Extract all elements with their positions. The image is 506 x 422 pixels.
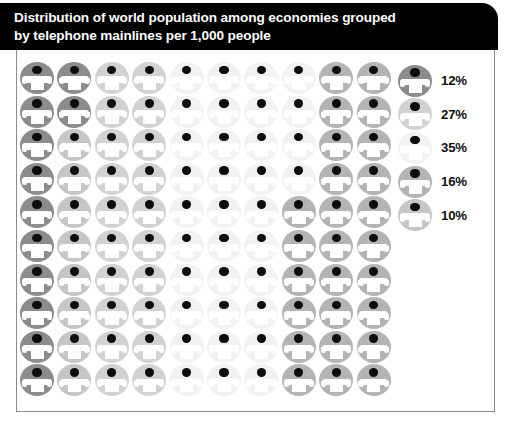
pictogram-cell (355, 96, 392, 130)
icon-dot (410, 136, 419, 145)
telephone-icon (207, 62, 241, 94)
icon-dot (369, 267, 378, 276)
icon-base (31, 281, 44, 292)
telephone-icon (95, 196, 129, 228)
icon-dot (219, 200, 228, 209)
pictogram-cell (242, 129, 279, 163)
icon-dot (332, 334, 341, 343)
icon-base (255, 180, 268, 191)
telephone-icon (132, 230, 166, 262)
icon-base (68, 180, 81, 191)
pictogram-cell (18, 230, 55, 264)
telephone-icon (244, 297, 278, 329)
icon-base (143, 348, 156, 359)
telephone-icon (57, 364, 91, 396)
icon-base (180, 147, 193, 158)
icon-base (218, 147, 231, 158)
telephone-icon (282, 163, 316, 195)
pictogram-cell (93, 230, 130, 264)
icon-dot (182, 99, 191, 108)
telephone-icon (319, 264, 353, 296)
pictogram-cell (130, 230, 167, 264)
pictogram-cell (55, 129, 92, 163)
icon-dot (257, 368, 266, 377)
icon-dot (410, 68, 419, 77)
icon-dot (107, 267, 116, 276)
icon-dot (369, 166, 378, 175)
icon-dot (70, 234, 79, 243)
icon-base (143, 147, 156, 158)
pictogram-cell (242, 264, 279, 298)
telephone-icon (398, 98, 432, 130)
pictogram-cell (205, 96, 242, 130)
icon-dot (369, 234, 378, 243)
icon-base (255, 214, 268, 225)
telephone-icon (207, 163, 241, 195)
icon-dot (332, 234, 341, 243)
icon-dot (369, 334, 378, 343)
icon-dot (410, 169, 419, 178)
pictogram-cell (55, 62, 92, 96)
icon-base (255, 382, 268, 393)
legend: 12%27%35%16%10% (398, 64, 484, 232)
pictogram-cell (130, 264, 167, 298)
icon-dot (70, 66, 79, 75)
icon-base (409, 183, 422, 194)
telephone-icon (170, 364, 204, 396)
icon-base (367, 247, 380, 258)
pictogram-cell (355, 62, 392, 96)
pictogram-cell (168, 364, 205, 398)
telephone-icon (132, 96, 166, 128)
pictogram-cell (242, 196, 279, 230)
telephone-icon (282, 264, 316, 296)
icon-base (68, 382, 81, 393)
icon-base (31, 315, 44, 326)
telephone-icon (20, 96, 54, 128)
pictogram-cell (18, 96, 55, 130)
icon-base (68, 214, 81, 225)
icon-dot (332, 301, 341, 310)
pictogram-cell (355, 264, 392, 298)
pictogram-cell (280, 96, 317, 130)
telephone-icon (207, 129, 241, 161)
infographic-figure: Distribution of world population among e… (0, 0, 506, 422)
icon-base (292, 180, 305, 191)
pictogram-cell (130, 62, 167, 96)
pictogram-cell (55, 96, 92, 130)
telephone-icon (95, 264, 129, 296)
pictogram-cell (168, 62, 205, 96)
icon-dot (32, 200, 41, 209)
pictogram-cell (205, 230, 242, 264)
telephone-icon (95, 230, 129, 262)
legend-item: 27% (398, 98, 484, 132)
telephone-icon (357, 129, 391, 161)
pictogram-cell (280, 163, 317, 197)
telephone-icon (170, 96, 204, 128)
legend-item: 35% (398, 131, 484, 165)
pictogram-cell (280, 264, 317, 298)
pictogram-cell (130, 196, 167, 230)
icon-dot (332, 166, 341, 175)
pictogram-cell (18, 129, 55, 163)
telephone-icon (244, 129, 278, 161)
icon-base (292, 247, 305, 258)
icon-dot (145, 99, 154, 108)
telephone-icon (20, 196, 54, 228)
icon-base (180, 180, 193, 191)
icon-base (105, 348, 118, 359)
icon-dot (32, 301, 41, 310)
icon-dot (219, 267, 228, 276)
icon-base (255, 147, 268, 158)
pictogram-cell (355, 129, 392, 163)
telephone-icon (20, 264, 54, 296)
icon-base (367, 79, 380, 90)
icon-base (143, 382, 156, 393)
icon-base (68, 348, 81, 359)
telephone-icon (244, 196, 278, 228)
pictogram-cell (130, 96, 167, 130)
icon-dot (182, 267, 191, 276)
telephone-icon (170, 62, 204, 94)
pictogram-cell (242, 230, 279, 264)
icon-base (292, 315, 305, 326)
icon-base (68, 147, 81, 158)
